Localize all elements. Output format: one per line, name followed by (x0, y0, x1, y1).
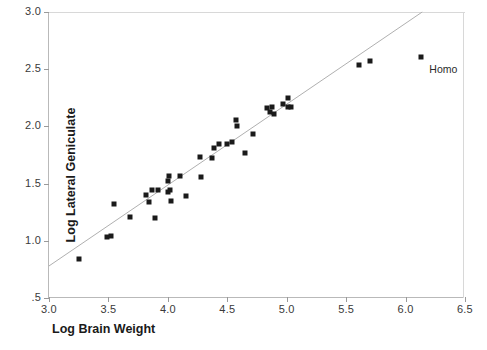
chart-figure: Log Lateral Geniculate Log Brain Weight … (0, 0, 487, 350)
x-axis-title: Log Brain Weight (52, 322, 155, 336)
annotation-layer: Homo (49, 12, 465, 298)
point-annotation: Homo (429, 63, 457, 75)
y-tick-label: 2.0 (25, 119, 41, 131)
x-tick-label: 6.5 (457, 303, 473, 315)
y-tick-label: 2.5 (25, 62, 41, 74)
y-tick-label: 1.0 (25, 234, 41, 246)
x-tick-label: 3.0 (41, 303, 57, 315)
y-tick-label: 3.0 (25, 5, 41, 17)
plot-area: .51.01.52.02.53.0 3.03.54.04.55.05.56.06… (48, 12, 464, 298)
x-tick-label: 3.5 (100, 303, 116, 315)
y-tick-label: 1.5 (25, 177, 41, 189)
x-tick: 6.5 (465, 297, 466, 302)
y-tick-label: .5 (31, 291, 41, 303)
x-tick-label: 5.5 (338, 303, 354, 315)
x-tick-label: 4.0 (160, 303, 176, 315)
x-tick-label: 4.5 (219, 303, 235, 315)
x-tick-label: 6.0 (398, 303, 414, 315)
x-tick-label: 5.0 (279, 303, 295, 315)
